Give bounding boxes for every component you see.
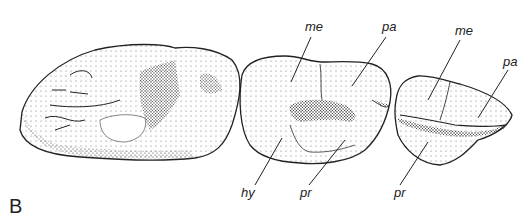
- tooth-2: [240, 56, 391, 164]
- label-paracone-tooth-2: pa: [382, 20, 396, 33]
- label-protocone-tooth-3: pr: [394, 186, 406, 199]
- panel-letter: B: [9, 196, 22, 216]
- tooth-1: [20, 45, 240, 161]
- tooth-illustration: me pa hy pr me pa pr B: [0, 0, 522, 219]
- tooth-3: [395, 76, 512, 165]
- label-hypocone-tooth-2: hy: [241, 186, 255, 199]
- label-metacone-tooth-3: me: [455, 24, 473, 37]
- label-protocone-tooth-2: pr: [300, 186, 312, 199]
- label-metacone-tooth-2: me: [305, 20, 323, 33]
- label-paracone-tooth-3: pa: [503, 55, 517, 68]
- teeth-drawing: [0, 0, 522, 219]
